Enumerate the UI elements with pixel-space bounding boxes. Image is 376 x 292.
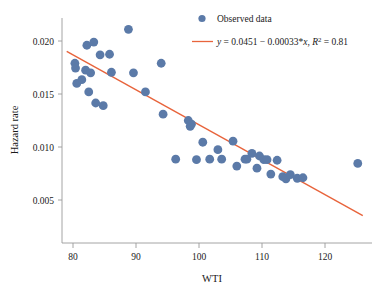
scatter-points: [70, 25, 362, 183]
data-point: [99, 101, 108, 110]
data-point: [96, 50, 105, 59]
data-point: [253, 164, 262, 173]
y-tick-label-0005: 0.005: [33, 196, 55, 206]
data-point: [171, 155, 180, 164]
x-tick-label-80: 80: [68, 252, 78, 262]
data-point: [198, 138, 207, 147]
data-point: [77, 75, 86, 84]
data-point: [232, 162, 241, 171]
data-point: [89, 38, 98, 47]
x-axis-ticks: [73, 243, 325, 248]
legend-label-observed: Observed data: [217, 14, 272, 24]
data-point: [71, 64, 80, 73]
legend-marker-icon: [198, 15, 205, 22]
data-point: [217, 155, 226, 164]
data-point: [124, 25, 133, 34]
legend-fit-value: = 0.81: [321, 37, 348, 47]
data-point: [86, 68, 95, 77]
x-tick-label-110: 110: [255, 252, 269, 262]
data-point: [157, 59, 166, 68]
y-tick-labels: 0.005 0.010 0.015 0.020: [33, 37, 55, 206]
data-point: [141, 87, 150, 96]
data-point: [91, 99, 100, 108]
chart-canvas: 0.005 0.010 0.015 0.020 80 90 100 110 12…: [0, 0, 376, 292]
data-point: [353, 159, 362, 168]
x-tick-label-100: 100: [192, 252, 207, 262]
legend: Observed data y = 0.0451 − 0.00033*x, R2…: [192, 14, 348, 47]
x-tick-label-120: 120: [318, 252, 333, 262]
data-point: [214, 145, 223, 154]
x-axis-title: WTI: [202, 273, 222, 284]
data-point: [299, 173, 308, 182]
data-point: [229, 137, 238, 146]
data-point: [192, 155, 201, 164]
x-tick-labels: 80 90 100 110 120: [68, 252, 332, 262]
data-point: [266, 170, 275, 179]
data-point: [273, 156, 282, 165]
y-axis-title: Hazard rate: [9, 105, 20, 154]
scatter-plot-figure: 0.005 0.010 0.015 0.020 80 90 100 110 12…: [0, 0, 376, 292]
data-point: [84, 87, 93, 96]
data-point: [129, 68, 138, 77]
legend-fit-eq: = 0.0451 − 0.00033*: [221, 37, 303, 47]
data-point: [105, 50, 114, 59]
data-point: [159, 110, 168, 119]
data-point: [263, 155, 272, 164]
y-tick-label-0015: 0.015: [33, 90, 55, 100]
x-tick-label-90: 90: [131, 252, 141, 262]
y-axis-ticks: [58, 41, 62, 200]
y-tick-label-0020: 0.020: [33, 37, 55, 47]
y-tick-label-0010: 0.010: [33, 143, 55, 153]
data-point: [248, 149, 257, 158]
data-point: [107, 68, 116, 77]
legend-label-fit: y = 0.0451 − 0.00033*x, R2 = 0.81: [216, 36, 348, 48]
data-point: [187, 120, 196, 129]
data-point: [205, 155, 214, 164]
